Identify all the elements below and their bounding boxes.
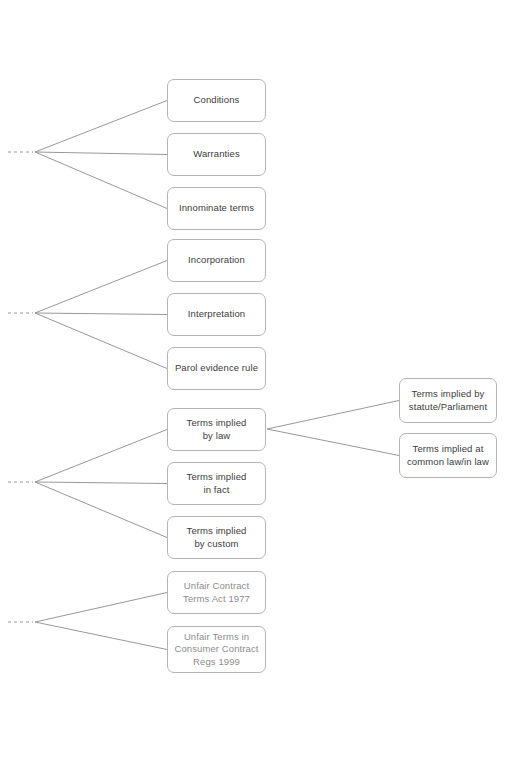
diagram-canvas: ConditionsWarrantiesInnominate termsInco… — [0, 0, 532, 781]
node-unfair-contract-terms-act-1977[interactable]: Unfair ContractTerms Act 1977 — [167, 571, 266, 614]
connector-terms-implied-by-statute — [267, 401, 399, 430]
node-unfair-terms-consumer-contract-regs-1999[interactable]: Unfair Terms inConsumer ContractRegs 199… — [167, 626, 266, 673]
connector-innominate-terms — [35, 152, 167, 209]
connector-conditions — [35, 101, 167, 153]
node-terms-implied-at-common-law[interactable]: Terms implied atcommon law/in law — [399, 433, 497, 478]
node-label-innominate-terms: Innominate terms — [173, 202, 260, 215]
connector-warranties — [35, 152, 167, 155]
node-innominate-terms[interactable]: Innominate terms — [167, 187, 266, 230]
connector-terms-implied-in-fact — [35, 482, 167, 484]
node-warranties[interactable]: Warranties — [167, 133, 266, 176]
node-incorporation[interactable]: Incorporation — [167, 239, 266, 282]
connector-unfair-terms-consumer-contract-regs-1999 — [35, 622, 167, 650]
node-terms-implied-by-custom[interactable]: Terms impliedby custom — [167, 516, 266, 559]
node-interpretation[interactable]: Interpretation — [167, 293, 266, 336]
node-parol-evidence-rule[interactable]: Parol evidence rule — [167, 347, 266, 390]
node-terms-implied-by-statute[interactable]: Terms implied bystatute/Parliament — [399, 378, 497, 423]
node-terms-implied-by-law[interactable]: Terms impliedby law — [167, 408, 266, 451]
connector-interpretation — [35, 313, 167, 315]
node-label-interpretation: Interpretation — [173, 308, 260, 321]
connector-terms-implied-at-common-law — [267, 429, 399, 456]
connector-parol-evidence-rule — [35, 313, 167, 369]
node-label-unfair-terms-consumer-contract-regs-1999: Unfair Terms inConsumer ContractRegs 199… — [173, 631, 260, 669]
connector-incorporation — [35, 261, 167, 314]
node-label-terms-implied-by-custom: Terms impliedby custom — [173, 525, 260, 550]
node-terms-implied-in-fact[interactable]: Terms impliedin fact — [167, 462, 266, 505]
node-label-unfair-contract-terms-act-1977: Unfair ContractTerms Act 1977 — [173, 580, 260, 605]
node-label-conditions: Conditions — [173, 94, 260, 107]
connector-terms-implied-by-law — [35, 430, 167, 483]
node-label-terms-implied-by-statute: Terms implied bystatute/Parliament — [405, 388, 491, 413]
node-label-warranties: Warranties — [173, 148, 260, 161]
node-label-parol-evidence-rule: Parol evidence rule — [173, 362, 260, 375]
connector-terms-implied-by-custom — [35, 482, 167, 538]
node-label-incorporation: Incorporation — [173, 254, 260, 267]
node-label-terms-implied-in-fact: Terms impliedin fact — [173, 471, 260, 496]
connector-unfair-contract-terms-act-1977 — [35, 593, 167, 623]
node-label-terms-implied-by-law: Terms impliedby law — [173, 417, 260, 442]
node-label-terms-implied-at-common-law: Terms implied atcommon law/in law — [405, 443, 491, 468]
node-conditions[interactable]: Conditions — [167, 79, 266, 122]
